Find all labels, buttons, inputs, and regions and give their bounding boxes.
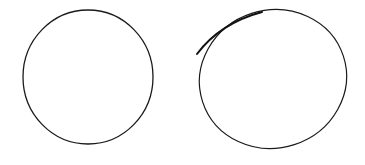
ellipse-overstroke-tail <box>197 12 262 54</box>
right-ellipse-group <box>181 0 364 165</box>
sketch-canvas <box>0 0 365 165</box>
left-circle <box>23 10 153 144</box>
right-ellipse <box>181 0 364 165</box>
